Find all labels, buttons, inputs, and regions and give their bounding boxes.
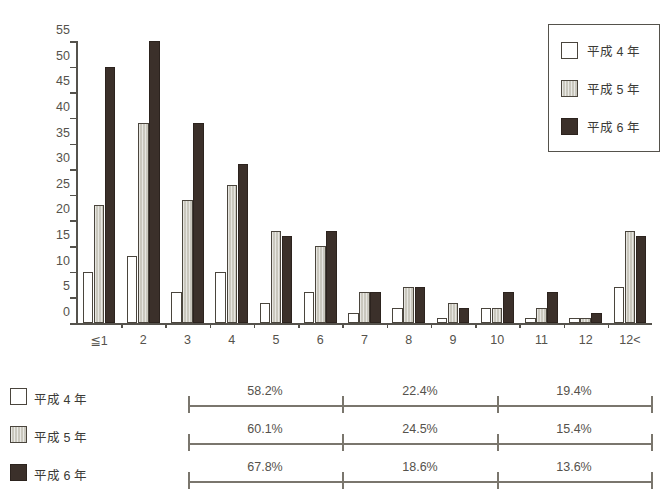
bar xyxy=(238,164,249,323)
bar xyxy=(625,231,636,323)
bar xyxy=(105,67,116,323)
bar-group xyxy=(77,41,121,323)
bar-group xyxy=(254,41,298,323)
legend-swatch-dark xyxy=(561,118,578,135)
x-axis-label: 3 xyxy=(184,333,191,347)
percent-row-axis xyxy=(188,443,652,445)
bar xyxy=(415,287,426,323)
bar xyxy=(392,308,403,323)
percent-value: 60.1% xyxy=(247,422,282,436)
percent-row-axis xyxy=(188,481,652,483)
y-tick-label: 35 xyxy=(56,127,70,139)
percent-value: 15.4% xyxy=(556,422,591,436)
bar xyxy=(591,313,602,323)
bar xyxy=(525,318,536,323)
percent-row-swatch-white xyxy=(10,388,27,405)
y-tick-label: 20 xyxy=(56,203,70,215)
legend-item-heisei-6: 平成 6 年 xyxy=(561,117,640,136)
bar xyxy=(403,287,414,323)
chart-legend: 平成 4 年 平成 5 年 平成 6 年 xyxy=(548,24,660,152)
x-axis-label: 4 xyxy=(228,333,235,347)
bar xyxy=(94,205,105,323)
bar xyxy=(580,318,591,323)
bar-group xyxy=(210,41,254,323)
legend-item-heisei-4: 平成 4 年 xyxy=(561,41,640,60)
bar-group xyxy=(387,41,431,323)
y-tick-label: 45 xyxy=(56,75,70,87)
x-tick-mark xyxy=(608,323,610,328)
y-tick-label: 50 xyxy=(56,50,70,62)
percent-row-label: 平成 6 年 xyxy=(34,465,87,484)
percent-value: 24.5% xyxy=(402,422,437,436)
y-tick-label: 15 xyxy=(56,229,70,241)
bar xyxy=(481,308,492,323)
bar xyxy=(215,272,226,323)
x-tick-mark xyxy=(475,323,477,328)
bar xyxy=(315,246,326,323)
y-tick-mark xyxy=(70,169,77,171)
percent-value: 13.6% xyxy=(556,460,591,474)
bar xyxy=(348,313,359,323)
percent-value: 58.2% xyxy=(247,384,282,398)
bar-group xyxy=(431,41,475,323)
bar-group xyxy=(121,41,165,323)
x-tick-mark xyxy=(387,323,389,328)
bar xyxy=(304,292,315,323)
percent-value: 67.8% xyxy=(247,460,282,474)
bar xyxy=(182,200,193,323)
percent-value: 22.4% xyxy=(402,384,437,398)
legend-swatch-white xyxy=(561,42,578,59)
y-tick-label: 25 xyxy=(56,178,70,190)
percent-row-tick xyxy=(497,396,499,413)
x-axis-label: ≦1 xyxy=(90,333,107,348)
percent-row-tick xyxy=(342,434,344,451)
x-axis-label: 9 xyxy=(449,333,456,347)
y-tick-mark xyxy=(70,41,77,43)
bar xyxy=(614,287,625,323)
percent-row-label: 平成 4 年 xyxy=(34,389,87,408)
legend-label: 平成 6 年 xyxy=(587,117,640,136)
bar xyxy=(636,236,647,323)
percent-row-tick xyxy=(188,472,190,489)
bar xyxy=(492,308,503,323)
chart-page: 55 50 45 40 35 30 25 20 15 10 5 0 ≦12345… xyxy=(0,0,672,491)
bar xyxy=(459,308,470,323)
bar-group xyxy=(298,41,342,323)
y-axis-labels: 55 50 45 40 35 30 25 20 15 10 5 0 xyxy=(44,30,70,330)
x-axis-label: 2 xyxy=(140,333,147,347)
percent-row-axis xyxy=(188,405,652,407)
percent-row-swatch-gray xyxy=(10,426,27,443)
bar xyxy=(326,231,337,323)
x-tick-mark xyxy=(431,323,433,328)
y-tick-label: 30 xyxy=(56,152,70,164)
x-axis-line xyxy=(76,323,652,325)
y-tick-label: 5 xyxy=(63,280,70,292)
bar xyxy=(503,292,514,323)
x-axis-label: 8 xyxy=(405,333,412,347)
y-tick-label: 10 xyxy=(56,255,70,267)
bar-group xyxy=(475,41,519,323)
percent-value: 18.6% xyxy=(402,460,437,474)
x-axis-label: 6 xyxy=(317,333,324,347)
y-tick-mark xyxy=(70,195,77,197)
legend-label: 平成 4 年 xyxy=(587,41,640,60)
bar xyxy=(359,292,370,323)
y-tick-mark xyxy=(70,220,77,222)
x-axis-label: 12 xyxy=(579,333,593,347)
bar-group xyxy=(342,41,386,323)
x-tick-mark xyxy=(298,323,300,328)
bar xyxy=(536,308,547,323)
y-tick-mark xyxy=(70,272,77,274)
y-tick-label: 40 xyxy=(56,101,70,113)
y-tick-mark xyxy=(70,67,77,69)
y-tick-mark xyxy=(70,118,77,120)
x-tick-mark xyxy=(121,323,123,328)
legend-label: 平成 5 年 xyxy=(587,79,640,98)
percent-row-tick xyxy=(497,472,499,489)
bar xyxy=(260,303,271,324)
x-tick-mark xyxy=(519,323,521,328)
x-axis-label: 12< xyxy=(619,333,640,347)
bar xyxy=(271,231,282,323)
y-tick-mark xyxy=(70,144,77,146)
percent-row-heisei-4: 平成 4 年 58.2% 22.4% 19.4% xyxy=(0,374,672,412)
